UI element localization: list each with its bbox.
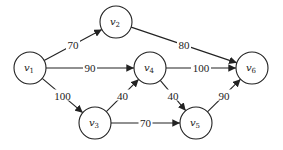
edge-v4-v5: 40 [160,80,185,110]
edge-v1-v2: 70 [44,30,102,61]
edge-v1-v4: 90 [46,62,134,74]
edge-weight-label: 70 [140,117,152,129]
node-v5: v5 [180,107,212,139]
edge-v3-v4: 40 [106,79,138,111]
edge-v4-v6: 100 [166,62,236,74]
edge-weight-label: 100 [193,62,210,74]
node-v6: v6 [236,52,268,84]
edge-weight-label: 90 [85,62,97,74]
node-v3: v3 [79,107,111,139]
node-v4: v4 [134,52,166,84]
edge-weight-label: 100 [54,90,71,102]
edge-weight-label: 90 [219,90,231,102]
edge-weight-label: 40 [168,90,180,102]
node-v2: v2 [100,6,132,38]
edge-v5-v6: 90 [207,79,240,112]
edge-weight-label: 40 [117,90,129,102]
node-v1: v1 [14,52,46,84]
edge-v3-v5: 70 [111,117,180,129]
edge-weight-label: 70 [68,39,80,51]
graph-diagram: 70901008010040407090 v1v2v3v4v5v6 [0,0,283,150]
edge-weight-label: 80 [179,39,191,51]
edge-v1-v3: 100 [42,78,83,112]
